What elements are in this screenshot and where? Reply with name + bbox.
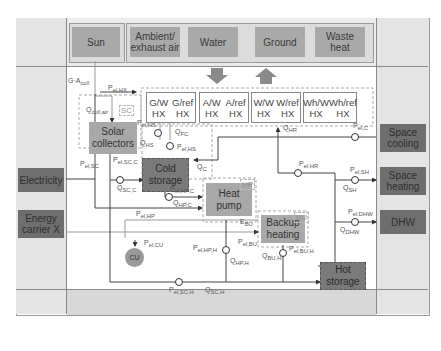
label-qc: QC (197, 163, 207, 172)
label-qhr: QHR (283, 124, 297, 133)
hx-water: W/W HXW/ref HX (251, 92, 301, 123)
output-space-heating: Space heating (380, 167, 426, 195)
solar-collectors: Solar collectors (89, 122, 137, 154)
label-pel-sh: Pel,SH (350, 166, 369, 175)
label-g-acoll: G·Acoll (68, 77, 89, 86)
hx-waste-heat: Wh/W HXWh/ref HX (303, 92, 357, 123)
label-pel-bu-h: Pel,BU,H (289, 245, 314, 254)
label-qbu-h: QBU,H (262, 252, 281, 261)
label-pel-hx: Pel,HX (108, 84, 127, 93)
output-dhw: DHW (380, 210, 426, 234)
tag-bu: BU (294, 212, 309, 223)
label-qsc-h: QSC,H (205, 286, 224, 295)
label-qsh: QSH (343, 184, 357, 193)
label-pel-hs-2: Pel,HS (177, 143, 196, 152)
label-pel-hs-1: Pel,HS (137, 119, 156, 128)
connection-lines (0, 0, 441, 351)
label-pel-hr: Pel,HR (299, 160, 318, 169)
label-pel-sc-h: Pel,SC,H (169, 286, 194, 295)
label-pel-sc-c: Pel,SC,C (113, 156, 138, 165)
label-pel-bu: Pel,BU (238, 238, 257, 247)
label-pel-hp: Pel,HP (136, 210, 155, 219)
input-electricity: Electricity (18, 168, 64, 192)
label-qhs: QHS (140, 139, 154, 148)
label-qdhw: QDHW (340, 226, 359, 235)
tag-sc: SC (119, 105, 134, 116)
hot-storage: Hot storage (320, 262, 366, 290)
label-pel-cu: Pel,CU (144, 239, 163, 248)
label-qhp-h: QHP,H (230, 257, 249, 266)
output-space-cooling: Space cooling (380, 124, 426, 152)
label-qcoll-air: Qcoll,air (86, 106, 108, 115)
label-pel-dhw: Pel,DHW (348, 208, 373, 217)
label-qsc-c: QSC,C (117, 184, 136, 193)
label-pel-c: Pel,C (353, 122, 368, 131)
input-energy-carrier-x: Energy carrier X (18, 210, 64, 238)
label-pel-hp-h: Pel,HP,H (193, 244, 217, 253)
hx-air: A/W HXA/ref HX (199, 92, 249, 123)
label-pel-hp-c: Pel,HP,C (170, 185, 194, 194)
tag-hp: HP (240, 179, 255, 190)
label-qfc: QFC (175, 128, 188, 137)
label-qhp-c: QHP,C (173, 199, 192, 208)
label-ebu: EBU (240, 218, 253, 227)
cu-unit: CU (125, 248, 144, 267)
label-pel-sc: Pel,SC (80, 160, 99, 169)
